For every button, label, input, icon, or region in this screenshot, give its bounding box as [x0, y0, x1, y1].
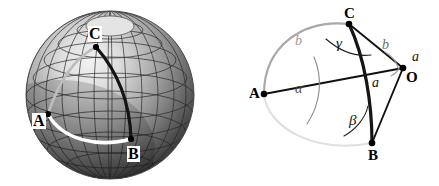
sphere-label-B: B — [127, 146, 140, 162]
vertex-dot-A — [261, 91, 268, 98]
angle-arc-gamma — [326, 39, 371, 55]
side-label-b-upper-left: b — [295, 34, 302, 48]
sphere-svg — [0, 0, 215, 186]
sphere-panel: C A B — [0, 0, 215, 186]
angle-arc-alpha — [307, 57, 319, 124]
figure-root: C A B — [0, 0, 439, 186]
vertex-dot-A — [45, 111, 51, 117]
vertex-dot-B — [369, 140, 376, 147]
vertex-dot-C — [346, 21, 353, 28]
triangle-label-C: C — [343, 6, 356, 21]
vertex-dot-C — [93, 44, 99, 50]
angle-label-beta: β — [349, 113, 356, 128]
angle-label-gamma: γ — [336, 36, 342, 51]
segment-A-O — [264, 68, 403, 94]
vertex-dot-B — [128, 136, 134, 142]
sphere-label-C: C — [88, 26, 102, 42]
arc-A-C — [264, 23, 349, 94]
side-label-a-centre: a — [372, 76, 379, 90]
side-label-b-right: b — [382, 38, 389, 52]
triangle-panel: C O A B α β γ b b a a — [215, 0, 439, 186]
sphere-label-A: A — [32, 113, 46, 129]
angle-label-alpha: α — [295, 82, 302, 96]
triangle-label-B: B — [367, 148, 379, 163]
triangle-label-O: O — [405, 70, 419, 85]
triangle-label-A: A — [248, 86, 261, 101]
side-label-a-at-O: a — [412, 50, 419, 64]
